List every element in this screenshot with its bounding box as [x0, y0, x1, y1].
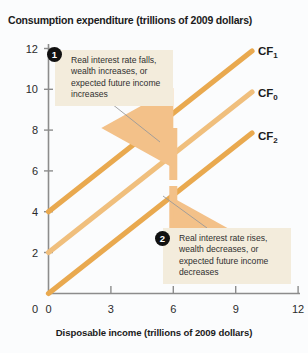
x-tick-label-3: 3	[108, 303, 114, 315]
x-axis-title: Disposable income (trillions of 2009 dol…	[0, 327, 308, 338]
y-tick-label-2: 2	[32, 247, 38, 259]
x-tick-label-9: 9	[233, 303, 239, 315]
curve-label-cf1: CF1	[258, 45, 278, 60]
y-tick-label-4: 4	[32, 206, 38, 218]
x-tick-label-0: 0	[45, 303, 51, 315]
x-tick-label-6: 6	[170, 303, 176, 315]
annotation-callout-1: Real interest rate falls, wealth increas…	[55, 50, 173, 106]
annotation-badge-1: 1	[47, 47, 62, 62]
annotation-badge-2: 2	[155, 231, 170, 246]
leader-line-1	[112, 104, 160, 142]
y-tick-label-0: 0	[32, 303, 38, 315]
y-tick-label-10: 10	[26, 83, 38, 95]
y-tick-label-8: 8	[32, 124, 38, 136]
y-tick-label-6: 6	[32, 165, 38, 177]
curve-label-cf0: CF0	[258, 87, 278, 102]
x-tick-label-12: 12	[292, 303, 304, 315]
curve-label-cf2: CF2	[258, 130, 278, 145]
annotation-callout-2: Real interest rate rises, wealth decreas…	[163, 228, 291, 284]
y-tick-label-12: 12	[26, 43, 38, 55]
consumption-function-figure: Consumption expenditure (trillions of 20…	[0, 0, 308, 353]
